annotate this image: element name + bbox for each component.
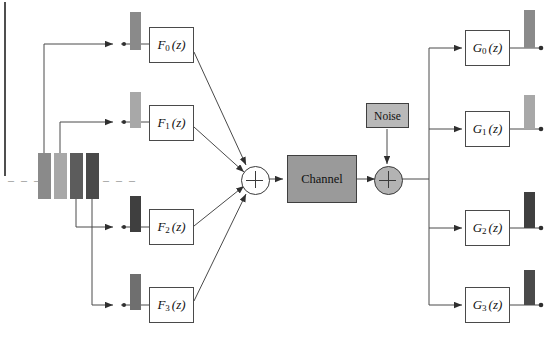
filter-f3[interactable]: F3(z) [149, 287, 194, 323]
synthesis-band-bar-2 [524, 192, 535, 228]
filter-f2-label: F2(z) [157, 219, 185, 235]
input-band-1 [54, 153, 67, 199]
noise-adder-plus-vertical [388, 171, 389, 188]
filter-g0[interactable]: G0(z) [465, 30, 510, 66]
noise-label: Noise [374, 110, 401, 122]
filter-f1-label: F1(z) [157, 115, 185, 131]
channel-label: Channel [301, 172, 343, 187]
filter-g0-label: G0(z) [473, 40, 503, 56]
wire-in0-to-f0 [44, 44, 113, 160]
wire-f2-to-sum [194, 186, 244, 226]
input-spectrum-ellipsis-right: – – – [103, 174, 137, 186]
filter-f0-label: F0(z) [157, 37, 185, 53]
filter-g3[interactable]: G3(z) [465, 287, 510, 323]
filter-g3-label: G3(z) [473, 297, 503, 313]
filter-g2[interactable]: G2(z) [465, 210, 510, 246]
input-spectrum-ellipsis-left: – – – [8, 174, 42, 186]
input-band-3 [86, 153, 99, 199]
filter-g2-label: G2(z) [473, 220, 503, 236]
analysis-band-bar-3 [130, 274, 141, 310]
synthesis-band-bar-3 [524, 270, 535, 305]
diagram-canvas: – – – – – – F0(z) F1(z) F2(z) F3(z) Chan… [0, 0, 550, 342]
analysis-band-bar-1 [130, 92, 141, 128]
input-band-2 [70, 153, 83, 199]
synthesis-band-bar-1 [524, 95, 535, 129]
analysis-band-bar-2 [130, 196, 141, 232]
noise-block[interactable]: Noise [366, 103, 409, 128]
wire-f1-to-sum [194, 127, 244, 172]
analysis-band-bar-0 [130, 12, 141, 50]
channel-block[interactable]: Channel [287, 155, 357, 203]
synthesis-band-bar-0 [524, 10, 535, 48]
wire-in3-to-f3 [92, 190, 113, 305]
combiner-plus-vertical [255, 171, 256, 188]
filter-f3-label: F3(z) [157, 297, 185, 313]
wire-f3-to-sum [194, 194, 246, 301]
filter-g1[interactable]: G1(z) [465, 111, 510, 147]
summing-junction-noise[interactable] [374, 166, 403, 195]
filter-f1[interactable]: F1(z) [149, 105, 194, 141]
filter-f2[interactable]: F2(z) [149, 209, 194, 245]
summing-junction-combiner[interactable] [241, 166, 270, 195]
filter-f0[interactable]: F0(z) [149, 27, 194, 63]
filter-g1-label: G1(z) [473, 121, 503, 137]
wire-f0-to-sum [194, 52, 246, 165]
